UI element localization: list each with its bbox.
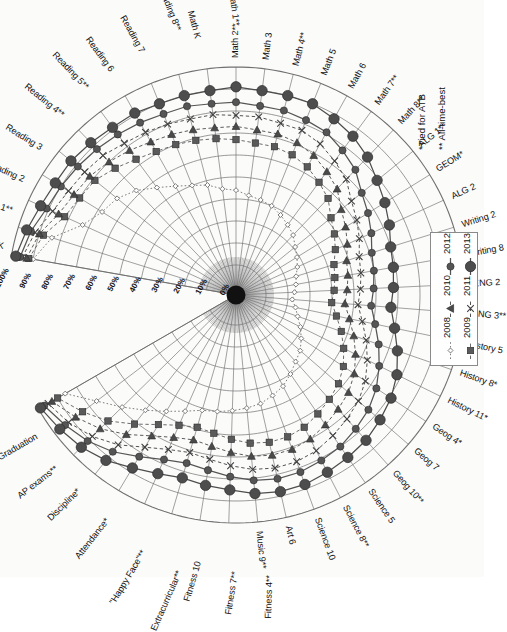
legend-label: 2011 xyxy=(462,276,471,296)
legend-label: 2012 xyxy=(442,233,451,254)
legend-marker-large-circle-icon xyxy=(462,258,473,275)
footnote-tied-for-atb: *Tied for ATB xyxy=(416,94,427,150)
legend-box[interactable]: 200820092010201120122013 xyxy=(430,232,478,366)
legend-entry-2012[interactable]: 2012 xyxy=(439,215,455,275)
legend-marker-triangle-icon xyxy=(442,300,453,317)
legend-label: 2010 xyxy=(442,275,451,296)
axis-label-37: Fitness 7** xyxy=(224,571,240,615)
series-2010 xyxy=(23,123,360,460)
legend-label: 2013 xyxy=(462,233,471,254)
legend-marker-small-diamond-icon xyxy=(442,342,453,359)
legend-marker-x-icon xyxy=(462,300,473,317)
axis-label-39: Extracurricular** xyxy=(150,570,184,632)
series-2008 xyxy=(31,183,304,414)
legend-label: 2009 xyxy=(462,317,471,338)
legend-entries: 200820092010201120122013 xyxy=(431,233,477,365)
axis-label-11: Math 2** xyxy=(231,24,240,58)
legend-marker-medium-circle-icon xyxy=(442,258,453,275)
footnote-block: *Tied for ATB ** All-time-best xyxy=(392,22,488,162)
axis-label-36: Fitness 4** xyxy=(264,575,275,619)
legend-entry-2013[interactable]: 2013 xyxy=(459,215,475,275)
legend-marker-square-icon xyxy=(462,342,473,359)
legend-label: 2008 xyxy=(442,317,451,338)
footnote-all-time-best: ** All-time-best xyxy=(436,87,447,150)
